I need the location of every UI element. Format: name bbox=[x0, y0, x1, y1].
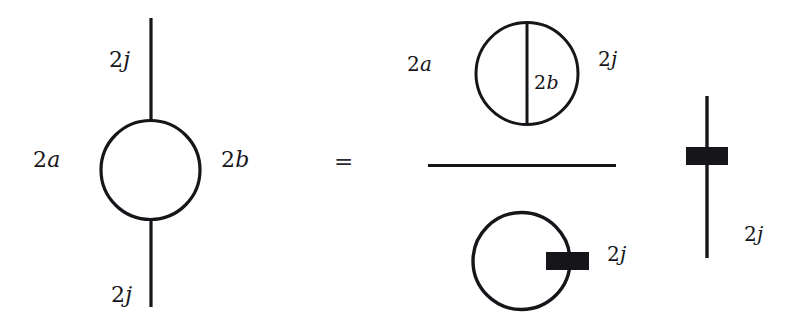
lhs-loop-right-label: 2b bbox=[221, 149, 250, 171]
trailing-factor-label: 2j bbox=[744, 224, 764, 244]
trailing-strand-with-box bbox=[686, 96, 728, 258]
numerator-chord-label: 2b bbox=[534, 73, 559, 92]
trailing-box bbox=[686, 147, 728, 165]
numerator-right-label: 2j bbox=[598, 49, 618, 69]
lhs-loop-circle bbox=[101, 121, 200, 220]
equals-sign: = bbox=[334, 150, 353, 173]
denominator-box bbox=[546, 252, 589, 270]
spin-network-identity-figure: = 2j 2j 2a 2b 2a 2b 2j 2j 2j bbox=[0, 0, 808, 334]
denominator-label: 2j bbox=[607, 244, 627, 264]
rhs-numerator-theta-net bbox=[476, 23, 578, 125]
rhs-denominator-loop-with-box bbox=[473, 213, 589, 310]
lhs-loop-left-label: 2a bbox=[33, 149, 61, 171]
lhs-top-strand-label: 2j bbox=[109, 49, 130, 71]
lhs-bottom-strand-label: 2j bbox=[111, 284, 132, 306]
numerator-left-label: 2a bbox=[407, 54, 432, 74]
